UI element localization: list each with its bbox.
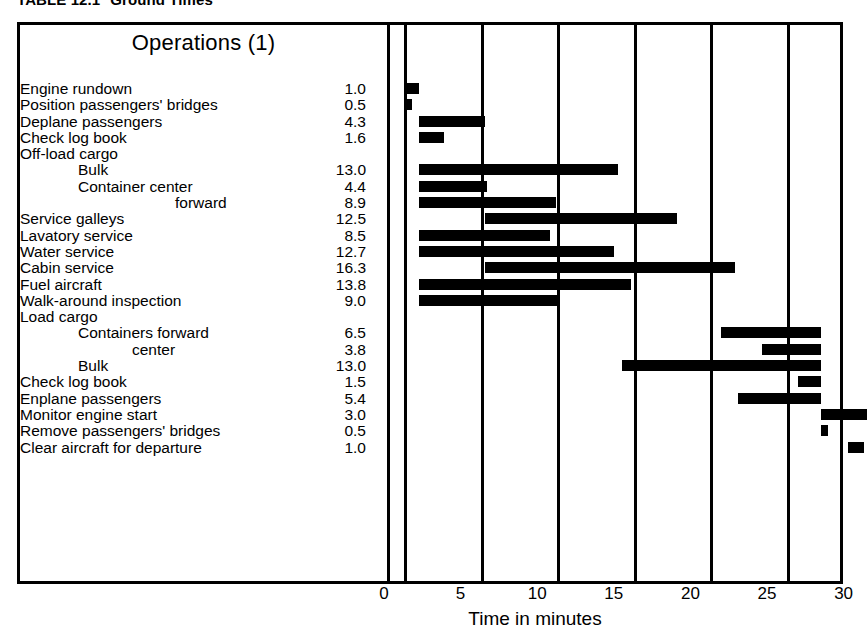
gantt-bar bbox=[419, 230, 549, 241]
gantt-bar-row bbox=[390, 391, 840, 407]
gantt-bar-row bbox=[390, 440, 840, 456]
operations-column-header: Operations (1) bbox=[20, 30, 387, 56]
task-row: Cabin service16.3 bbox=[20, 260, 384, 276]
x-tick-label: 5 bbox=[456, 584, 465, 604]
task-row: center3.8 bbox=[20, 342, 384, 358]
task-duration: 13.0 bbox=[336, 162, 366, 178]
gantt-bar bbox=[485, 262, 735, 273]
task-row: Fuel aircraft13.8 bbox=[20, 277, 384, 293]
task-duration: 4.3 bbox=[344, 114, 366, 130]
task-label: Position passengers' bridges bbox=[20, 97, 218, 113]
task-label: forward bbox=[175, 195, 227, 211]
gantt-bar-row bbox=[390, 162, 840, 178]
gantt-bar-row bbox=[390, 293, 840, 309]
gantt-bar-row bbox=[390, 260, 840, 276]
task-label: Check log book bbox=[20, 374, 127, 390]
task-duration: 8.9 bbox=[344, 195, 366, 211]
gantt-bar bbox=[404, 83, 419, 94]
task-duration: 4.4 bbox=[344, 179, 366, 195]
task-row: Lavatory service8.5 bbox=[20, 228, 384, 244]
task-duration: 13.8 bbox=[336, 277, 366, 293]
x-tick-label: 15 bbox=[604, 584, 623, 604]
gantt-bar bbox=[622, 360, 821, 371]
gantt-bar-row bbox=[390, 114, 840, 130]
task-label: Engine rundown bbox=[20, 81, 132, 97]
bars-layer bbox=[390, 81, 840, 561]
gantt-bar bbox=[721, 327, 821, 338]
task-label: Water service bbox=[20, 244, 114, 260]
gantt-bar-row bbox=[390, 97, 840, 113]
gantt-bar bbox=[419, 197, 555, 208]
gantt-bar-row bbox=[390, 244, 840, 260]
gantt-bar-row bbox=[390, 358, 840, 374]
gantt-bar bbox=[762, 344, 820, 355]
task-label: Off-load cargo bbox=[20, 146, 118, 162]
task-label: Service galleys bbox=[20, 211, 124, 227]
table-caption-number: TABLE 12.1 bbox=[17, 0, 100, 8]
task-duration: 8.5 bbox=[344, 228, 366, 244]
x-tick-label: 20 bbox=[681, 584, 700, 604]
gantt-bar-row bbox=[390, 228, 840, 244]
task-duration: 3.8 bbox=[344, 342, 366, 358]
task-label: Monitor engine start bbox=[20, 407, 157, 423]
task-row: Service galleys12.5 bbox=[20, 211, 384, 227]
x-tick-label: 10 bbox=[528, 584, 547, 604]
gantt-bar bbox=[419, 181, 486, 192]
task-label: Bulk bbox=[78, 162, 108, 178]
task-label-list: Engine rundown1.0Position passengers' br… bbox=[20, 81, 384, 456]
task-duration: 12.7 bbox=[336, 244, 366, 260]
gantt-bar bbox=[738, 393, 821, 404]
task-row: Water service12.7 bbox=[20, 244, 384, 260]
task-duration: 3.0 bbox=[344, 407, 366, 423]
task-duration: 1.6 bbox=[344, 130, 366, 146]
x-axis: 051015202530 Time in minutes bbox=[370, 584, 865, 640]
gantt-bar-row bbox=[390, 81, 840, 97]
task-label: Load cargo bbox=[20, 309, 98, 325]
task-row: Monitor engine start3.0 bbox=[20, 407, 384, 423]
gantt-bar-row bbox=[390, 277, 840, 293]
gantt-bar-row bbox=[390, 325, 840, 341]
x-tick-label: 0 bbox=[379, 584, 388, 604]
gantt-chart-frame: Operations (1) Engine rundown1.0Position… bbox=[17, 22, 843, 584]
gantt-bar-row bbox=[390, 195, 840, 211]
task-duration: 9.0 bbox=[344, 293, 366, 309]
gantt-bar-row bbox=[390, 309, 840, 325]
task-row: Remove passengers' bridges0.5 bbox=[20, 423, 384, 439]
gantt-bar-row bbox=[390, 407, 840, 423]
task-duration: 1.0 bbox=[344, 440, 366, 456]
gantt-bar bbox=[848, 442, 863, 453]
x-tick-label: 30 bbox=[834, 584, 853, 604]
task-label: Lavatory service bbox=[20, 228, 133, 244]
gantt-bar bbox=[485, 213, 677, 224]
task-row: Engine rundown1.0 bbox=[20, 81, 384, 97]
x-axis-title: Time in minutes bbox=[370, 608, 700, 630]
task-label: Container center bbox=[78, 179, 193, 195]
task-label: Cabin service bbox=[20, 260, 114, 276]
table-caption: TABLE 12.1Ground Times bbox=[17, 0, 213, 8]
gantt-bar bbox=[419, 164, 618, 175]
gantt-bar bbox=[419, 295, 557, 306]
task-label: Bulk bbox=[78, 358, 108, 374]
gantt-bar bbox=[419, 116, 485, 127]
task-row: Bulk13.0 bbox=[20, 162, 384, 178]
task-row: Enplane passengers5.4 bbox=[20, 391, 384, 407]
task-row: Containers forward6.5 bbox=[20, 325, 384, 341]
task-duration: 0.5 bbox=[344, 423, 366, 439]
task-duration: 6.5 bbox=[344, 325, 366, 341]
task-row: Walk-around inspection9.0 bbox=[20, 293, 384, 309]
task-duration: 16.3 bbox=[336, 260, 366, 276]
task-duration: 5.4 bbox=[344, 391, 366, 407]
task-row: Check log book1.5 bbox=[20, 374, 384, 390]
task-row: Check log book1.6 bbox=[20, 130, 384, 146]
x-tick-label: 25 bbox=[758, 584, 777, 604]
task-row: Container center4.4 bbox=[20, 179, 384, 195]
gantt-bar-row bbox=[390, 130, 840, 146]
gantt-bar-row bbox=[390, 179, 840, 195]
gantt-bar bbox=[798, 376, 821, 387]
task-label: Check log book bbox=[20, 130, 127, 146]
task-label: Remove passengers' bridges bbox=[20, 423, 220, 439]
task-duration: 12.5 bbox=[336, 211, 366, 227]
task-row: Clear aircraft for departure1.0 bbox=[20, 440, 384, 456]
task-row: forward8.9 bbox=[20, 195, 384, 211]
task-duration: 1.5 bbox=[344, 374, 366, 390]
